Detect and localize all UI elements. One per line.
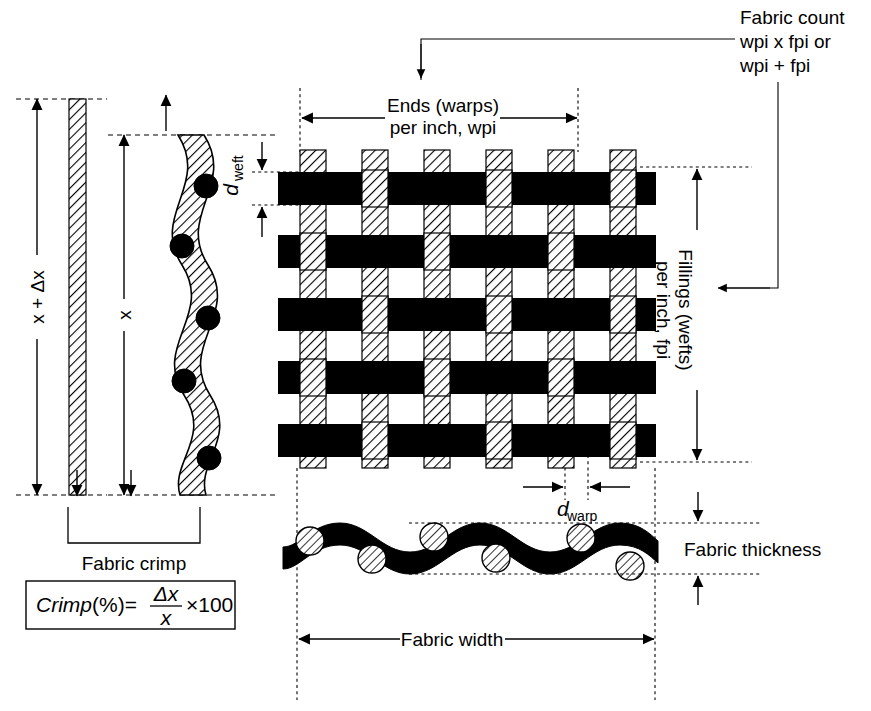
warp-over-weft-float bbox=[486, 422, 512, 459]
warp-cross-section-circle bbox=[296, 527, 324, 555]
weft-yarn-row bbox=[278, 424, 656, 457]
d-warp-subscript: warp bbox=[566, 508, 598, 524]
warp-over-weft-float bbox=[362, 296, 388, 333]
figure-canvas: x + Δx x Fabric crimp Crimp (%)= Δx x ×1… bbox=[0, 0, 871, 711]
fillings-line1: Fillings (wefts) bbox=[675, 249, 696, 370]
fabric-width-label: Fabric width bbox=[401, 629, 503, 650]
crimp-formula-name: Crimp bbox=[36, 593, 92, 616]
fabric-structure-diagram: x + Δx x Fabric crimp Crimp (%)= Δx x ×1… bbox=[0, 0, 871, 711]
crimp-formula-percent: (%)= bbox=[92, 593, 137, 616]
weft-cross-section-dot bbox=[197, 446, 221, 470]
warp-over-weft-float bbox=[362, 422, 388, 459]
warp-over-weft-float bbox=[610, 296, 636, 333]
weft-yarn-row bbox=[278, 298, 656, 331]
straight-yarn-length-label: x + Δx bbox=[25, 255, 49, 339]
warp-over-weft-float bbox=[424, 233, 450, 270]
warp-over-weft-float bbox=[300, 233, 326, 270]
fabric-crimp-label: Fabric crimp bbox=[82, 553, 187, 574]
warp-cross-section-circle bbox=[420, 523, 448, 551]
crimp-formula-numerator: Δx bbox=[153, 582, 180, 605]
warp-over-weft-float bbox=[610, 422, 636, 459]
crimped-length-text: x + Δx bbox=[27, 270, 48, 324]
fillings-per-inch-label: Fillings (wefts) per inch, fpi bbox=[653, 249, 696, 370]
warp-cross-section-circle bbox=[616, 552, 644, 580]
fillings-line2: per inch, fpi bbox=[653, 261, 674, 359]
fabric-thickness-label: Fabric thickness bbox=[684, 539, 821, 560]
crimp-formula-box: Crimp (%)= Δx x ×100 bbox=[26, 581, 235, 629]
fabric-count-line2: wpi x fpi or bbox=[739, 31, 831, 52]
straight-length-label: x bbox=[111, 299, 137, 331]
warp-over-weft-float bbox=[548, 233, 574, 270]
warp-over-weft-float bbox=[424, 359, 450, 396]
warp-cross-section-circle bbox=[567, 524, 595, 552]
ends-per-inch-line1: Ends (warps) bbox=[387, 95, 499, 116]
warp-over-weft-float bbox=[300, 359, 326, 396]
warp-over-weft-float bbox=[486, 170, 512, 207]
weft-cross-section-dot bbox=[170, 234, 194, 258]
fabric-count-line1: Fabric count bbox=[740, 7, 845, 28]
weft-yarn-row bbox=[278, 172, 656, 205]
d-weft-subscript: weft bbox=[230, 155, 246, 182]
warp-over-weft-float bbox=[548, 359, 574, 396]
d-weft-symbol: d bbox=[219, 183, 242, 196]
warp-over-weft-float bbox=[362, 170, 388, 207]
warp-cross-section-circle bbox=[358, 545, 386, 573]
weft-yarn-row bbox=[278, 361, 656, 394]
ends-per-inch-line2: per inch, wpi bbox=[390, 117, 497, 138]
straight-length-text: x bbox=[114, 310, 135, 320]
weft-cross-section-dot bbox=[194, 174, 218, 198]
crimp-formula-denominator: x bbox=[160, 606, 173, 629]
crimp-formula-multiplier: ×100 bbox=[186, 593, 233, 616]
weft-yarn-row bbox=[278, 235, 656, 268]
fabric-count-line3: wpi + fpi bbox=[739, 55, 810, 76]
weft-cross-section-dot bbox=[172, 369, 196, 393]
weft-cross-section-dot bbox=[196, 306, 220, 330]
warp-over-weft-float bbox=[610, 170, 636, 207]
straight-yarn-bar bbox=[69, 99, 86, 495]
warp-cross-section-circle bbox=[482, 544, 510, 572]
warp-over-weft-float bbox=[486, 296, 512, 333]
